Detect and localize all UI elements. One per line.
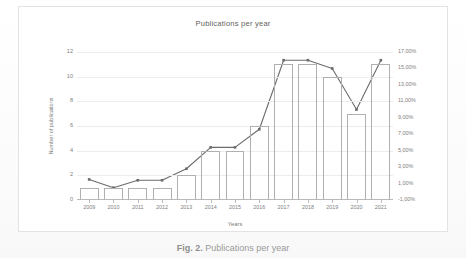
x-axis-tick-label: 2012 — [156, 205, 168, 210]
y2-axis-tick-label: 9,00% — [398, 115, 413, 120]
line-series-marker — [355, 108, 358, 111]
plot-area: 024681012-1,00%1,00%3,00%5,00%7,00%9,00%… — [77, 52, 393, 200]
x-axis-tick — [381, 200, 382, 203]
y-axis-tick-label: 6 — [70, 123, 73, 129]
gridline — [77, 52, 393, 53]
line-series-marker — [209, 146, 212, 149]
x-axis-tick — [284, 200, 285, 203]
x-axis-tick — [162, 200, 163, 203]
x-axis-tick-label: 2021 — [375, 205, 387, 210]
bar — [177, 175, 196, 200]
x-axis-tick-label: 2014 — [205, 205, 217, 210]
gridline — [77, 101, 393, 102]
x-axis-tick — [308, 200, 309, 203]
bar — [250, 126, 269, 200]
line-series-marker — [136, 179, 139, 182]
x-axis-tick-label: 2018 — [302, 205, 314, 210]
line-series-marker — [234, 146, 237, 149]
y-axis-tick-label: 4 — [70, 148, 73, 154]
y-axis-tick-label: 2 — [70, 173, 73, 179]
y2-axis-tick-label: 1,00% — [398, 181, 413, 186]
figure-caption-text: Publications per year — [205, 243, 289, 253]
y-axis-tick-label: 0 — [70, 197, 73, 203]
line-series-marker — [331, 67, 334, 70]
figure-caption-label: Fig. 2. — [177, 243, 203, 253]
x-axis-tick — [332, 200, 333, 203]
y2-axis-tick-label: 15,00% — [398, 66, 416, 71]
bar — [201, 151, 220, 200]
y2-axis-tick-label: -1,00% — [398, 197, 415, 202]
x-axis-tick — [138, 200, 139, 203]
y2-axis-tick-label: 3,00% — [398, 164, 413, 169]
bar — [80, 188, 99, 200]
bar — [323, 77, 342, 200]
y-axis-tick-label: 8 — [70, 99, 73, 105]
x-axis-tick-label: 2020 — [351, 205, 363, 210]
x-axis-tick — [357, 200, 358, 203]
bar — [226, 151, 245, 200]
line-series-marker — [282, 59, 285, 62]
bar — [104, 188, 123, 200]
y-axis-tick-label: 10 — [67, 74, 73, 80]
bar — [298, 64, 317, 200]
gridline — [77, 126, 393, 127]
bar — [371, 64, 390, 200]
figure-caption: Fig. 2. Publications per year — [0, 243, 466, 258]
x-axis-tick-label: 2013 — [180, 205, 192, 210]
x-axis-tick — [186, 200, 187, 203]
bar — [153, 188, 172, 200]
x-axis-tick — [259, 200, 260, 203]
x-axis-tick — [89, 200, 90, 203]
bar — [274, 64, 293, 200]
x-axis-tick — [235, 200, 236, 203]
x-axis-tick-label: 2016 — [253, 205, 265, 210]
gridline — [77, 77, 393, 78]
bar — [128, 188, 147, 200]
y2-axis-tick-label: 17,00% — [398, 49, 416, 54]
x-axis-tick — [113, 200, 114, 203]
x-axis-tick-label: 2011 — [132, 205, 144, 210]
y-axis-title: Number of publications — [45, 52, 57, 200]
y-axis-tick-label: 12 — [67, 49, 73, 55]
y2-axis-tick-label: 11,00% — [398, 99, 416, 104]
line-series-marker — [88, 178, 91, 181]
y-axis-title-label: Number of publications — [48, 97, 54, 154]
x-axis-tick — [211, 200, 212, 203]
x-axis-tick-label: 2015 — [229, 205, 241, 210]
x-axis-tick-label: 2010 — [107, 205, 119, 210]
y2-axis-tick-label: 13,00% — [398, 82, 416, 87]
x-axis-tick-label: 2019 — [326, 205, 338, 210]
figure-container: Publications per year Number of publicat… — [0, 0, 466, 258]
chart-card: Publications per year Number of publicat… — [18, 6, 448, 232]
x-axis-tick-label: 2009 — [83, 205, 95, 210]
bar — [347, 114, 366, 200]
line-series-marker — [161, 179, 164, 182]
y2-axis-tick-label: 7,00% — [398, 132, 413, 137]
chart-title: Publications per year — [19, 19, 447, 28]
line-series-marker — [185, 167, 188, 170]
x-axis-tick-label: 2017 — [278, 205, 290, 210]
x-axis-title: Years — [77, 221, 393, 227]
line-series-marker — [380, 59, 383, 62]
y2-axis-tick-label: 5,00% — [398, 148, 413, 153]
line-series-marker — [307, 59, 310, 62]
